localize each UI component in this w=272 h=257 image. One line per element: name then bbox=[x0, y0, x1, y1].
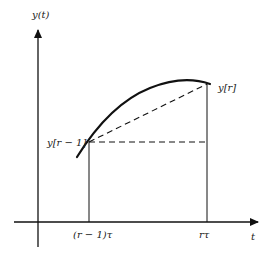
diagram-canvas: y(t) t y[r − 1] y[r] (r − 1)τ rτ bbox=[0, 0, 272, 257]
t-axis-label: t bbox=[251, 231, 256, 242]
point-prev-label: y[r − 1] bbox=[46, 137, 86, 148]
point-curr-label: y[r] bbox=[217, 82, 236, 93]
y-axis-label: y(t) bbox=[31, 9, 50, 20]
chord-dashed-line bbox=[89, 84, 207, 142]
tick-curr-label: rτ bbox=[199, 229, 210, 240]
tick-prev-label: (r − 1)τ bbox=[73, 229, 113, 240]
signal-curve bbox=[77, 80, 210, 157]
